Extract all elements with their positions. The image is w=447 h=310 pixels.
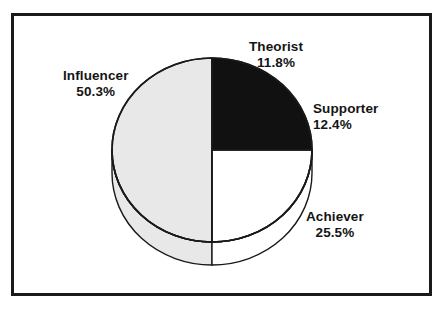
slice-label-theorist-percent: 11.8%: [249, 55, 303, 71]
slice-label-influencer-name: Influencer: [63, 68, 129, 84]
slice-label-theorist: Theorist 11.8%: [249, 39, 303, 71]
slice-label-influencer-percent: 50.3%: [63, 84, 129, 100]
slice-label-achiever-percent: 25.5%: [306, 225, 364, 241]
pie-chart-figure: Theorist 11.8% Supporter 12.4% Influence…: [0, 0, 447, 310]
slice-label-theorist-name: Theorist: [249, 39, 303, 55]
slice-label-supporter-name: Supporter: [313, 101, 378, 117]
pie-slice-achiever: [212, 150, 312, 242]
slice-label-achiever: Achiever 25.5%: [306, 209, 364, 241]
slice-label-influencer: Influencer 50.3%: [63, 68, 129, 100]
slice-label-supporter-percent: 12.4%: [313, 117, 378, 133]
pie-slice-theorist-supporter: [212, 58, 312, 150]
pie-chart-graphic: [0, 0, 447, 310]
slice-label-achiever-name: Achiever: [306, 209, 364, 225]
slice-label-supporter: Supporter 12.4%: [313, 101, 378, 133]
chart-plot-area: Theorist 11.8% Supporter 12.4% Influence…: [0, 0, 447, 310]
